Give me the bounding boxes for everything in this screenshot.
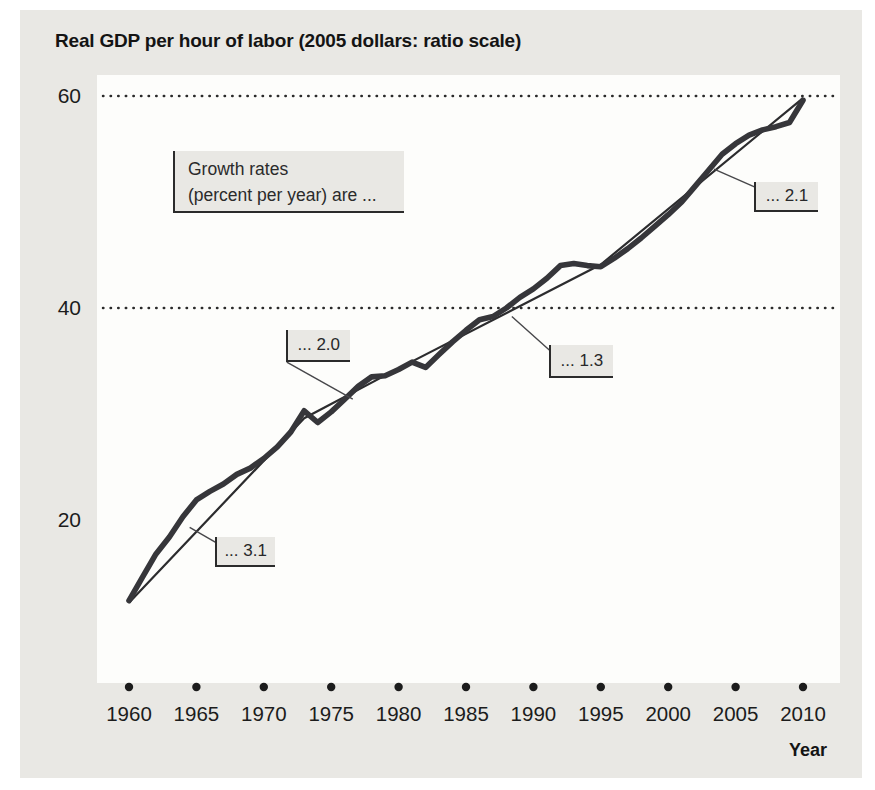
x-tick-label: 1985 [432,702,500,726]
y-tick-label: 40 [35,296,81,320]
x-axis-title: Year [789,740,827,761]
x-tick-label: 2000 [634,702,702,726]
x-tick-label: 1960 [95,702,163,726]
chart-canvas [0,0,875,790]
leader-line [287,362,353,399]
growth-rates-note: Growth rates (percent per year) are ... [173,151,404,213]
growth-rate-label: ... 2.0 [286,330,350,362]
x-tick-label: 2005 [702,702,770,726]
y-tick-label: 20 [35,508,81,532]
growth-rate-label: ... 2.1 [754,182,818,212]
x-axis-dot-2005 [731,683,739,691]
leader-line [512,316,550,350]
figure-page: { "figure": { "title": "Real GDP per hou… [0,0,875,790]
x-axis-dot-1985 [462,683,470,691]
x-tick-label: 1990 [499,702,567,726]
x-tick-label: 1965 [162,702,230,726]
x-tick-label: 2010 [769,702,837,726]
x-axis-dot-1960 [125,683,133,691]
x-tick-label: 1975 [297,702,365,726]
leader-line [714,169,755,187]
x-axis-dot-1995 [597,683,605,691]
growth-rate-label: ... 1.3 [549,345,613,378]
x-axis-dot-1990 [529,683,537,691]
growth-rate-label: ... 3.1 [215,537,275,567]
x-tick-label: 1995 [567,702,635,726]
growth-rates-note-line1: Growth rates [188,156,394,182]
x-axis-dot-1970 [260,683,268,691]
growth-rates-note-line2: (percent per year) are ... [188,182,394,208]
x-axis-dot-1975 [327,683,335,691]
x-axis-dot-2000 [664,683,672,691]
y-tick-label: 60 [35,84,81,108]
x-tick-label: 1970 [230,702,298,726]
x-axis-dot-2010 [799,683,807,691]
x-axis-dot-1965 [192,683,200,691]
x-tick-label: 1980 [365,702,433,726]
x-axis-dot-1980 [394,683,402,691]
